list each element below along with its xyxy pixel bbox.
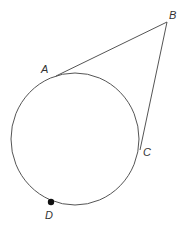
label-point-c: C <box>143 146 151 158</box>
label-point-a: A <box>40 63 48 75</box>
circle <box>11 73 139 205</box>
tangent-segment-ab <box>56 22 167 76</box>
tangent-segment-bc <box>140 22 167 150</box>
point-d-marker <box>48 199 54 205</box>
label-point-d: D <box>45 209 53 221</box>
tangent-circle-diagram: A B C D <box>0 0 186 232</box>
label-point-b: B <box>169 9 176 21</box>
